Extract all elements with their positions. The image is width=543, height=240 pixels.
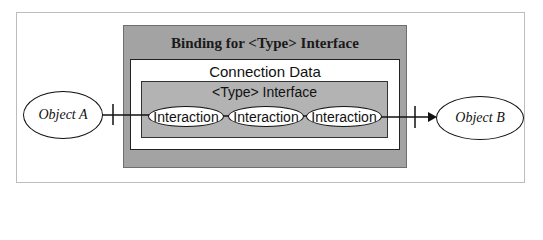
object-a-label: Object A [38,107,87,123]
interaction-label: Interaction [311,109,376,125]
interaction-ellipse-3: Interaction [306,106,382,127]
interaction-ellipse-1: Interaction [148,106,224,127]
object-b-ellipse: Object B [436,96,524,140]
interaction-label: Interaction [233,109,298,125]
interaction-label: Interaction [153,109,218,125]
interaction-ellipse-2: Interaction [228,106,304,127]
object-b-label: Object B [455,110,504,126]
object-a-ellipse: Object A [23,91,103,139]
